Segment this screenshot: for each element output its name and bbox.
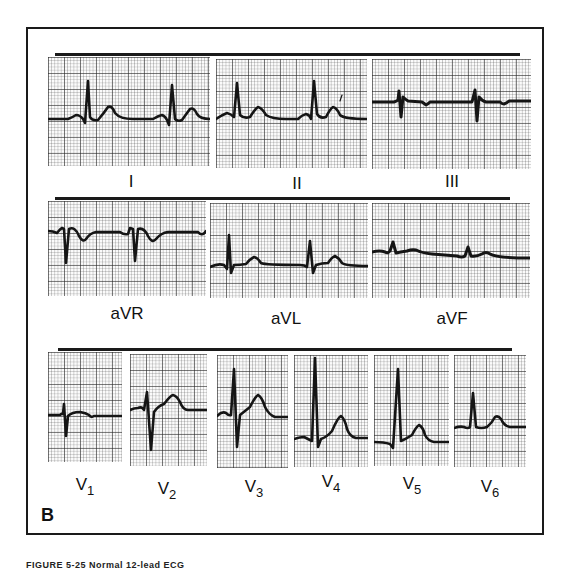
lead-label-aVF: aVF [436,309,467,329]
ecg-strip-lead-V1 [48,352,122,462]
ecg-strip-lead-III [372,59,531,169]
lead-label-aVR: aVR [110,304,143,324]
ecg-strip-lead-V5 [374,355,449,466]
lead-label-V2: V2 [158,479,177,502]
ecg-strip-lead-V4 [294,355,368,467]
lead-label-V3: V3 [245,477,264,500]
lead-label-III: III [445,172,459,192]
lead-label-II: II [292,174,301,194]
ecg-strip-lead-II [216,59,367,168]
ecg-strip-lead-aVL [210,203,368,298]
ecg-strip-lead-aVF [372,203,530,298]
row3-calibration-bar [58,348,512,351]
ecg-strip-lead-V3 [217,355,288,468]
row1-calibration-bar [55,53,520,56]
panel-letter: B [41,505,54,526]
lead-label-V4: V4 [322,472,341,495]
ecg-strip-lead-V2 [130,354,207,466]
row2-calibration-bar [55,197,510,200]
ecg-strip-lead-I [48,57,210,166]
ecg-strip-lead-aVR [48,201,206,296]
lead-label-aVL: aVL [271,309,301,329]
figure-caption: FIGURE 5-25 Normal 12-lead ECG [26,560,185,570]
ecg-strip-lead-V6 [454,355,526,467]
lead-label-V5: V5 [403,474,422,497]
lead-label-I: I [129,172,134,192]
lead-label-V1: V1 [76,475,95,498]
lead-label-V6: V6 [481,477,500,500]
